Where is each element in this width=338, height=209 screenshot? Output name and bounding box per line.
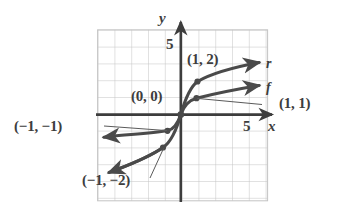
graph-figure: y x 5 5 r f (1, 2) (0, 0) (1, 1) (−1, −1… (0, 0, 338, 209)
x-axis-label: x (268, 119, 275, 134)
curve-label-r: r (266, 57, 271, 71)
annotation-point-neg1-neg2: (−1, −2) (82, 173, 130, 188)
annotation-point-1-1: (1, 1) (279, 96, 310, 111)
curve-label-f: f (266, 81, 270, 95)
x-tick-5: 5 (243, 119, 250, 134)
point-1-2 (194, 78, 200, 84)
annotation-point-0-0: (0, 0) (131, 89, 162, 104)
y-axis-label: y (159, 11, 165, 26)
point-0-0 (177, 111, 184, 118)
y-tick-5: 5 (166, 37, 173, 52)
annotation-point-neg1-neg1: (−1, −1) (14, 119, 62, 134)
annotation-point-1-2: (1, 2) (187, 52, 218, 67)
